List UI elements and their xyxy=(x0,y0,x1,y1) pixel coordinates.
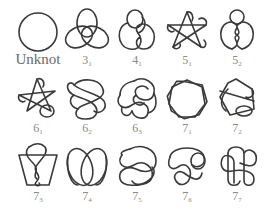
cinquefoil-diagram xyxy=(164,7,210,53)
stevedore-knot-diagram xyxy=(15,75,61,121)
knot-6-1: 61 xyxy=(11,68,65,138)
knot-7-6: 76 xyxy=(160,136,214,206)
knot-label: 76 xyxy=(160,189,214,207)
knot-7-7-diagram xyxy=(214,143,260,189)
knot-table: Unknot 31 41 51 52 xyxy=(0,0,275,213)
knot-7-6-diagram xyxy=(164,143,210,189)
knot-6-3: 63 xyxy=(110,68,164,138)
knot-unknot: Unknot xyxy=(11,0,65,70)
knot-5-2: 52 xyxy=(210,0,264,70)
knot-7-1: 71 xyxy=(160,68,214,138)
knot-5-1: 51 xyxy=(160,0,214,70)
knot-label: 74 xyxy=(60,189,114,207)
knot-7-3-diagram xyxy=(15,143,61,189)
septafoil-diagram xyxy=(164,75,210,121)
trefoil-diagram xyxy=(64,7,110,53)
knot-7-4-diagram xyxy=(64,143,110,189)
knot-label: Unknot xyxy=(11,52,65,66)
knot-7-5: 75 xyxy=(110,136,164,206)
knot-7-5-diagram xyxy=(114,143,160,189)
knot-6-2: 62 xyxy=(60,68,114,138)
knot-label: 77 xyxy=(210,189,264,207)
knot-label: 73 xyxy=(11,189,65,207)
figure-eight-diagram xyxy=(114,7,160,53)
unknot-diagram xyxy=(15,7,61,53)
three-twist-knot-diagram xyxy=(214,7,260,53)
knot-6-3-diagram xyxy=(114,75,160,121)
knot-7-4: 74 xyxy=(60,136,114,206)
knot-label: 75 xyxy=(110,189,164,207)
knot-7-2-diagram xyxy=(214,75,260,121)
knot-4-1: 41 xyxy=(110,0,164,70)
knot-7-7: 77 xyxy=(210,136,264,206)
knot-7-3: 73 xyxy=(11,136,65,206)
knot-3-1: 31 xyxy=(60,0,114,70)
knot-6-2-diagram xyxy=(64,75,110,121)
knot-7-2: 72 xyxy=(210,68,264,138)
